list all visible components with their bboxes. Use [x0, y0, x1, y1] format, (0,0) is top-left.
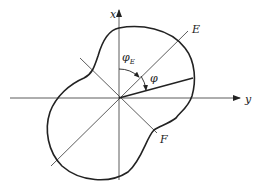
phi-e-subscript: E	[129, 58, 135, 66]
f-line-label: F	[159, 133, 168, 146]
phi-label: φ	[150, 72, 158, 85]
principal-line-f	[80, 58, 157, 133]
e-line-label: E	[191, 23, 200, 36]
polar-curve	[47, 27, 194, 180]
y-axis-label: y	[244, 93, 252, 106]
x-axis-label: x	[110, 8, 117, 21]
diagram-canvas: x y E F φE φ	[0, 0, 259, 186]
phi-e-label: φE	[122, 51, 135, 66]
angle-arc-phi-e	[119, 69, 139, 77]
angle-arc-phi	[141, 76, 146, 90]
